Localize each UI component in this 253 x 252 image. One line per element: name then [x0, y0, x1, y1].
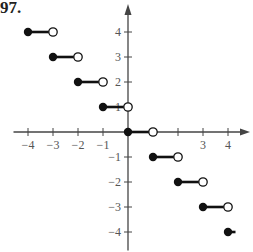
y-axis-arrow-icon [125, 4, 132, 15]
closed-endpoint-icon [124, 128, 132, 136]
y-tick-label: 2 [115, 75, 121, 89]
y-tick-label: −1 [108, 150, 121, 164]
open-endpoint-icon [99, 78, 107, 86]
step-segment [199, 203, 232, 211]
step-segment [124, 128, 157, 136]
step-segment [174, 178, 207, 186]
x-axis-arrow-icon [240, 129, 250, 136]
open-endpoint-icon [124, 103, 132, 111]
open-endpoint-icon [224, 203, 232, 211]
step-segment [224, 228, 236, 236]
closed-endpoint-icon [74, 78, 82, 86]
step-function-graph: 97. −4−3−2−1344321−1−2−3−4 [0, 0, 253, 252]
open-endpoint-icon [49, 28, 57, 36]
y-tick-label: 4 [115, 25, 121, 39]
step-segment [149, 153, 182, 161]
x-tick-label: 3 [200, 138, 206, 152]
step-segment [49, 53, 82, 61]
closed-endpoint-icon [49, 53, 57, 61]
closed-endpoint-icon [174, 178, 182, 186]
step-segment [74, 78, 107, 86]
closed-endpoint-icon [199, 203, 207, 211]
closed-endpoint-icon [99, 103, 107, 111]
step-segment [24, 28, 57, 36]
problem-number: 97. [0, 0, 21, 17]
open-endpoint-icon [149, 128, 157, 136]
closed-endpoint-icon [149, 153, 157, 161]
y-tick-label: −3 [108, 200, 121, 214]
x-tick-label: 4 [225, 138, 231, 152]
x-tick-label: −3 [47, 138, 60, 152]
open-endpoint-icon [74, 53, 82, 61]
y-tick-label: −4 [108, 225, 121, 239]
closed-endpoint-icon [24, 28, 32, 36]
x-tick-label: −2 [72, 138, 85, 152]
x-tick-label: −4 [22, 138, 35, 152]
open-endpoint-icon [199, 178, 207, 186]
axes [14, 4, 251, 251]
y-tick-label: 3 [115, 50, 121, 64]
closed-endpoint-icon [224, 228, 232, 236]
y-tick-label: −2 [108, 175, 121, 189]
open-endpoint-icon [174, 153, 182, 161]
